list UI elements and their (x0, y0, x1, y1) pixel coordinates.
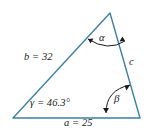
angle-label-alpha: α (99, 33, 105, 44)
angle-alpha-arrowhead-left (88, 39, 94, 44)
side-label-b: b = 32 (24, 52, 53, 63)
angle-label-beta: β (114, 93, 120, 104)
angle-beta-arrowhead-top (125, 85, 131, 91)
angle-label-gamma: γ = 46.3° (30, 98, 70, 109)
side-label-a: a = 25 (64, 118, 93, 129)
side-label-c: c (129, 57, 134, 68)
triangle-diagram: b = 32 a = 25 c α β γ = 46.3° (0, 0, 151, 133)
angle-beta-arrowhead-bottom (103, 108, 109, 113)
angle-alpha-arrowhead-right (120, 37, 126, 42)
